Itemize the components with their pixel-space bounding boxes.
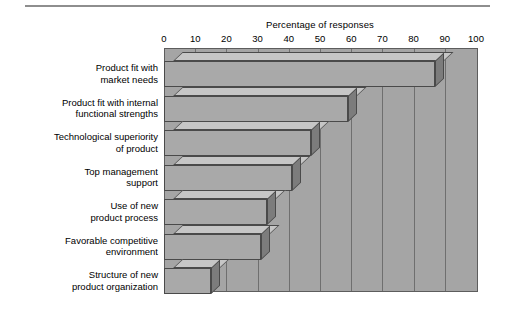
bar-side-face [435,53,444,87]
x-tick-label: 70 [377,33,388,44]
bar-top-face [173,87,367,96]
bar-front-face [164,199,267,225]
x-tick-label: 60 [346,33,357,44]
bar[interactable] [164,156,301,191]
x-tick-label: 90 [440,33,451,44]
bar-front-face [164,96,348,122]
chart-title: Percentage of responses [164,19,476,30]
category-label: Structure of new product organization [8,269,158,292]
x-tick-label: 30 [252,33,263,44]
bar-front-face [164,234,261,260]
bar[interactable] [164,87,357,122]
bar-front-face [164,130,311,156]
bar-top-face [173,259,229,268]
x-tick-label: 40 [284,33,295,44]
x-tick-label: 10 [190,33,201,44]
bar-front-face [164,61,435,87]
x-tick-label: 50 [315,33,326,44]
category-label: Product fit with market needs [8,62,158,85]
category-label: Technological superiority of product [8,131,158,154]
category-label: Use of new product process [8,200,158,223]
bar[interactable] [164,225,270,260]
bar[interactable] [164,190,276,225]
bar[interactable] [164,259,220,294]
bar-top-face [173,156,311,165]
category-label: Top management support [8,166,158,189]
category-label: Favorable competitive environment [8,235,158,258]
x-tick-label: 20 [221,33,232,44]
bar[interactable] [164,121,320,156]
x-tick-label: 0 [161,33,166,44]
x-tick-label: 80 [408,33,419,44]
bar-top-face [173,52,454,61]
bar-top-face [173,121,329,130]
category-labels: Product fit with market needsProduct fit… [0,0,158,321]
chart-figure: Percentage of responses 0102030405060708… [0,0,507,321]
gridline [445,49,446,291]
bar-front-face [164,268,211,294]
x-tick-label: 100 [468,33,484,44]
bar[interactable] [164,52,444,87]
category-label: Product fit with internal functional str… [8,97,158,120]
bar-front-face [164,165,292,191]
